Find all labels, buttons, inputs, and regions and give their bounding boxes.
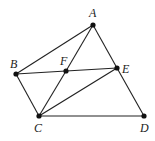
point-A (90, 22, 95, 27)
segment-FE (66, 68, 117, 71)
segment-FC (39, 71, 66, 116)
segment-BC (16, 74, 39, 116)
segment-CE (39, 68, 117, 116)
label-B: B (10, 57, 18, 71)
point-D (141, 113, 146, 118)
point-C (36, 113, 41, 118)
point-F (63, 68, 68, 73)
label-C: C (34, 121, 43, 135)
label-D: D (139, 121, 149, 135)
label-E: E (121, 62, 130, 76)
point-E (114, 65, 119, 70)
point-B (13, 71, 18, 76)
segment-AF (66, 25, 93, 71)
segment-BF (16, 71, 66, 74)
label-A: A (88, 6, 97, 20)
segment-AE (93, 25, 117, 68)
geometry-diagram: ABFECD (0, 0, 155, 141)
label-F: F (59, 54, 68, 68)
segment-AB (16, 25, 93, 74)
